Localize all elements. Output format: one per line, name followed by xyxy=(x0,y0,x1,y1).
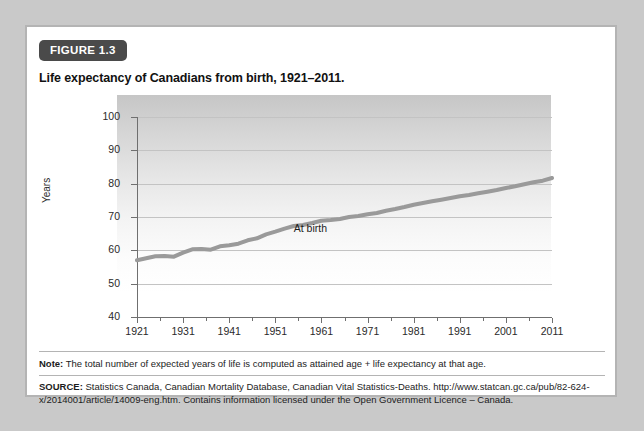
source-divider xyxy=(39,375,605,376)
note-divider xyxy=(39,351,605,352)
source-text: Statistics Canada, Canadian Mortality Da… xyxy=(39,381,590,405)
figure-number-badge: FIGURE 1.3 xyxy=(39,40,127,61)
note-block: Note: The total number of expected years… xyxy=(39,357,609,370)
source-label: SOURCE: xyxy=(39,381,83,392)
page-title: Life expectancy of Canadians from birth,… xyxy=(39,71,344,85)
chart-container: Years 405060708090100 192119311941195119… xyxy=(39,95,605,347)
source-block: SOURCE: Statistics Canada, Canadian Mort… xyxy=(39,381,609,406)
series-line-at-birth xyxy=(137,178,552,260)
note-label: Note: xyxy=(39,358,63,369)
series-annotation-at-birth: At birth xyxy=(294,222,327,234)
figure-card: FIGURE 1.3 Life expectancy of Canadians … xyxy=(25,25,617,397)
note-text: The total number of expected years of li… xyxy=(63,358,486,369)
